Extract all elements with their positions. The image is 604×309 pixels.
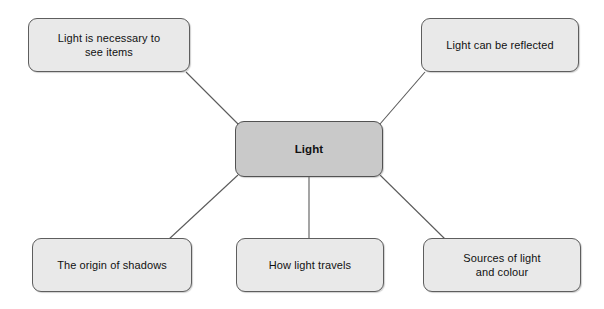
node-sources-of-light-and-colour[interactable]: Sources of light and colour	[423, 238, 581, 292]
node-the-origin-of-shadows[interactable]: The origin of shadows	[32, 238, 192, 292]
node-label: Light	[287, 142, 332, 156]
node-light-center[interactable]: Light	[235, 121, 383, 177]
node-label: The origin of shadows	[49, 258, 175, 272]
edge-center-bottomright	[380, 175, 446, 240]
node-light-can-be-reflected[interactable]: Light can be reflected	[421, 18, 579, 72]
edge-center-topright	[380, 72, 425, 124]
edge-center-topleft	[186, 72, 238, 124]
node-light-is-necessary-to-see-items[interactable]: Light is necessary to see items	[28, 18, 190, 72]
node-label: How light travels	[261, 258, 359, 272]
edge-center-bottomleft	[168, 175, 238, 240]
node-how-light-travels[interactable]: How light travels	[236, 238, 384, 292]
node-label: Light is necessary to see items	[50, 31, 168, 59]
node-label: Sources of light and colour	[455, 251, 548, 279]
mind-map-canvas: Light is necessary to see items Light ca…	[0, 0, 604, 309]
node-label: Light can be reflected	[438, 38, 561, 52]
